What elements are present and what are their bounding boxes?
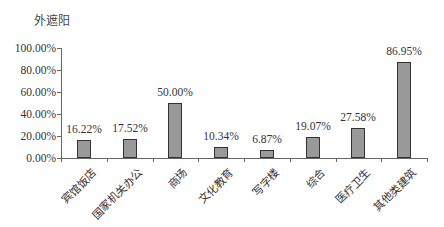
y-tick-label: 60.00% xyxy=(21,86,56,98)
bar xyxy=(123,139,137,158)
bar xyxy=(260,150,274,158)
x-category-label: 医疗卫生 xyxy=(331,164,373,206)
bar-value-label: 50.00% xyxy=(157,86,192,98)
bar xyxy=(77,140,91,158)
bar xyxy=(351,128,365,158)
x-category-label: 其他类建筑 xyxy=(369,164,419,214)
y-tick-label: 40.00% xyxy=(21,108,56,120)
bar-value-label: 10.34% xyxy=(203,130,238,142)
x-tick xyxy=(290,158,291,162)
y-tick xyxy=(57,48,61,49)
x-tick xyxy=(244,158,245,162)
x-tick xyxy=(336,158,337,162)
x-tick xyxy=(198,158,199,162)
x-tick xyxy=(107,158,108,162)
y-tick-label: 100.00% xyxy=(15,42,56,54)
x-tick xyxy=(153,158,154,162)
bar-value-label: 17.52% xyxy=(112,122,147,134)
x-category-label: 文化教育 xyxy=(194,164,236,206)
bar-value-label: 16.22% xyxy=(66,123,101,135)
x-tick xyxy=(427,158,428,162)
bar xyxy=(214,147,228,158)
y-tick-label: 80.00% xyxy=(21,64,56,76)
bar-chart: 外遮阳 0.00% 20.00% 40.00% 60.00% 80.00% 10… xyxy=(0,0,444,227)
x-tick xyxy=(61,158,62,162)
x-category-label: 宾馆饭店 xyxy=(57,164,99,206)
y-tick-label: 20.00% xyxy=(21,130,56,142)
y-axis xyxy=(61,48,62,158)
bar xyxy=(397,62,411,158)
bar xyxy=(306,137,320,158)
y-tick-label: 0.00% xyxy=(26,152,56,164)
y-tick xyxy=(57,70,61,71)
bar xyxy=(168,103,182,158)
x-category-label: 商场 xyxy=(163,164,190,191)
y-tick xyxy=(57,136,61,137)
x-tick xyxy=(381,158,382,162)
chart-title: 外遮阳 xyxy=(34,11,70,29)
bar-value-label: 86.95% xyxy=(386,45,421,57)
bar-value-label: 6.87% xyxy=(252,133,282,145)
y-tick xyxy=(57,114,61,115)
y-tick xyxy=(57,92,61,93)
x-category-label: 写字楼 xyxy=(248,164,283,199)
x-category-label: 综合 xyxy=(301,164,328,191)
bar-value-label: 19.07% xyxy=(295,120,330,132)
bar-value-label: 27.58% xyxy=(340,111,375,123)
